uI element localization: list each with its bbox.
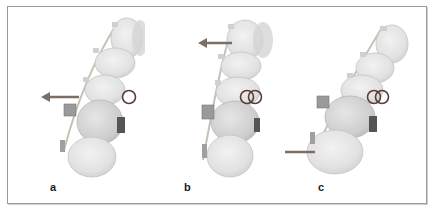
tooth-molar (207, 135, 253, 177)
tooth-molar (68, 137, 116, 177)
tooth-molar (307, 130, 363, 174)
bracket (317, 96, 329, 108)
tooth-lateral (95, 48, 135, 78)
panel-c: c (285, 0, 429, 209)
panel-label-a: a (50, 181, 56, 193)
dental-arch-illustration-a (0, 0, 145, 209)
bracket (202, 105, 214, 119)
dental-arch-illustration-b (145, 0, 285, 209)
dental-arch-illustration-c (285, 0, 429, 209)
force-arrow-icon (41, 92, 79, 102)
panel-a: a (0, 0, 145, 209)
panel-label-b: b (184, 181, 191, 193)
tooth-lateral (221, 52, 261, 80)
panel-label-c: c (318, 181, 324, 193)
contact-ring-icon (123, 91, 136, 104)
lingual-attachment (369, 116, 377, 132)
bracket (64, 104, 76, 116)
panel-b: b (145, 0, 285, 209)
tooth-premolar (77, 100, 123, 144)
lingual-attachment (254, 118, 260, 132)
lingual-attachment (117, 117, 125, 133)
